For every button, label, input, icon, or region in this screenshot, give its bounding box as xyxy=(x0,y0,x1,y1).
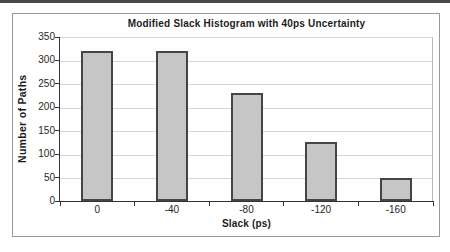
y-tick-250 xyxy=(55,83,60,84)
x-tick-label--80: -80 xyxy=(217,204,277,215)
x-tick-label--40: -40 xyxy=(142,204,202,215)
y-tick-label-50: 50 xyxy=(21,173,55,183)
bar-0 xyxy=(81,51,113,201)
y-tick-300 xyxy=(55,60,60,61)
y-tick-350 xyxy=(55,37,60,38)
y-tick-label-300: 300 xyxy=(21,55,55,65)
y-tick-label-100: 100 xyxy=(21,149,55,159)
page-top-rule xyxy=(0,0,450,3)
y-tick-label-250: 250 xyxy=(21,79,55,89)
bar--120 xyxy=(305,142,337,201)
x-tick-4 xyxy=(358,202,359,206)
x-tick-1 xyxy=(134,202,135,206)
x-tick-2 xyxy=(209,202,210,206)
bar--40 xyxy=(156,51,188,201)
bar--160 xyxy=(380,178,412,201)
chart-frame: Modified Slack Histogram with 40ps Uncer… xyxy=(12,13,440,237)
gridline-300 xyxy=(60,61,432,62)
x-axis-title: Slack (ps) xyxy=(60,218,433,229)
x-axis-line xyxy=(59,201,434,203)
x-tick-label-0: 0 xyxy=(67,204,127,215)
bar--80 xyxy=(231,93,263,201)
x-tick-0 xyxy=(60,202,61,206)
y-tick-label-200: 200 xyxy=(21,102,55,112)
y-tick-100 xyxy=(55,154,60,155)
y-tick-50 xyxy=(55,177,60,178)
y-tick-200 xyxy=(55,107,60,108)
x-tick-5 xyxy=(433,202,434,206)
y-tick-label-0: 0 xyxy=(21,196,55,206)
y-tick-150 xyxy=(55,130,60,131)
plot-area xyxy=(60,37,433,201)
chart-title: Modified Slack Histogram with 40ps Uncer… xyxy=(60,18,433,29)
y-tick-label-350: 350 xyxy=(21,32,55,42)
gridline-250 xyxy=(60,84,432,85)
x-tick-3 xyxy=(283,202,284,206)
x-tick-label--120: -120 xyxy=(291,204,351,215)
y-tick-label-150: 150 xyxy=(21,126,55,136)
x-tick-label--160: -160 xyxy=(366,204,426,215)
